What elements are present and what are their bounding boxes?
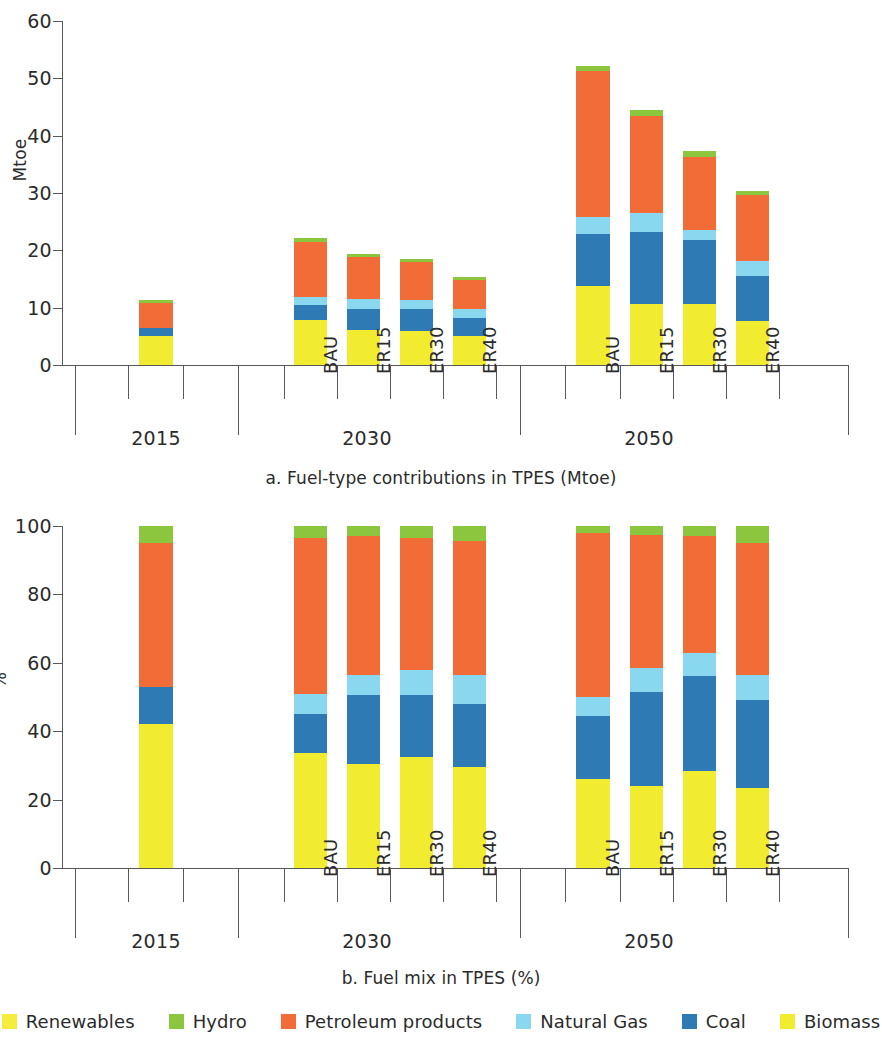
bar-segment	[294, 297, 327, 306]
x-category-label: ER15	[656, 829, 677, 877]
x-category-label: ER30	[426, 829, 447, 877]
x-category-label: ER15	[373, 326, 394, 374]
bar-segment	[139, 724, 173, 868]
x-category-label: BAU	[320, 336, 341, 374]
bar-segment	[453, 280, 486, 309]
bar-segment	[453, 309, 486, 318]
bar-segment	[453, 541, 486, 674]
plot-area-b	[0, 526, 882, 868]
bar-segment	[736, 276, 769, 321]
bar-segment	[400, 670, 433, 696]
stacked-bar	[294, 526, 327, 868]
caption-a: a. Fuel-type contributions in TPES (Mtoe…	[0, 468, 882, 488]
bar-segment	[683, 157, 716, 230]
x-category-label: BAU	[602, 839, 623, 877]
x-category-label: ER40	[762, 829, 783, 877]
x-group-label: 2030	[307, 427, 427, 449]
stacked-bar	[736, 21, 769, 365]
bar-segment	[139, 300, 173, 303]
bar-segment	[736, 195, 769, 260]
bar-segment	[294, 305, 327, 319]
x-tick-mark-group	[75, 868, 76, 938]
x-tick-mark-group	[238, 868, 239, 938]
x-tick-mark	[128, 365, 129, 399]
bar-segment	[400, 300, 433, 309]
bar-segment	[736, 543, 769, 675]
bar-segment	[683, 526, 716, 536]
x-tick-mark-group	[848, 868, 849, 938]
bar-segment	[294, 526, 327, 538]
legend-swatch-icon	[169, 1014, 184, 1029]
bar-segment	[139, 303, 173, 328]
stacked-bar	[576, 526, 610, 868]
bar-segment	[400, 526, 433, 538]
bar-segment	[630, 692, 663, 786]
legend-item: Coal	[682, 1011, 746, 1032]
x-tick-mark	[128, 868, 129, 902]
x-category-label: BAU	[602, 336, 623, 374]
bar-segment	[576, 234, 610, 286]
x-category-label: ER15	[373, 829, 394, 877]
bar-segment	[453, 675, 486, 704]
x-tick-mark	[565, 365, 566, 399]
plot-area-a	[0, 21, 882, 365]
legend-label: Biomass	[804, 1011, 880, 1032]
figure-root: Mtoe 0102030405060 BAUER15ER30ER40BAUER1…	[0, 0, 882, 1037]
legend: RenewablesHydroPetroleum productsNatural…	[0, 1005, 882, 1037]
legend-label: Petroleum products	[305, 1011, 483, 1032]
bar-segment	[347, 526, 380, 536]
x-tick-mark-group	[848, 365, 849, 435]
bar-segment	[294, 538, 327, 694]
bar-segment	[453, 526, 486, 541]
bar-segment	[630, 526, 663, 535]
bar-segment	[294, 714, 327, 753]
legend-item: Biomass	[780, 1011, 880, 1032]
bar-segment	[139, 543, 173, 687]
x-tick-mark	[284, 868, 285, 902]
bar-segment	[347, 299, 380, 309]
bar-segment	[630, 535, 663, 668]
bar-segment	[347, 695, 380, 763]
x-tick-mark-group	[520, 868, 521, 938]
chart-panel-a: Mtoe 0102030405060 BAUER15ER30ER40BAUER1…	[0, 0, 882, 500]
bar-segment	[453, 277, 486, 280]
x-tick-mark	[284, 365, 285, 399]
x-category-label: ER30	[709, 829, 730, 877]
legend-item: Natural Gas	[516, 1011, 648, 1032]
stacked-bar	[453, 21, 486, 365]
x-axis-line-b	[62, 868, 848, 869]
stacked-bar	[139, 21, 173, 365]
x-axis-line-a	[62, 365, 848, 366]
stacked-bar	[347, 526, 380, 868]
bar-segment	[576, 716, 610, 779]
stacked-bar	[630, 21, 663, 365]
legend-label: Natural Gas	[540, 1011, 648, 1032]
stacked-bar	[630, 526, 663, 868]
bar-segment	[630, 668, 663, 692]
bar-segment	[347, 536, 380, 675]
legend-item: Petroleum products	[281, 1011, 483, 1032]
bar-segment	[347, 257, 380, 299]
x-group-label: 2015	[96, 930, 216, 952]
bar-segment	[400, 538, 433, 670]
bar-segment	[576, 71, 610, 217]
bar-segment	[139, 328, 173, 337]
x-category-label: ER30	[426, 326, 447, 374]
x-group-label: 2030	[307, 930, 427, 952]
bar-segment	[139, 687, 173, 725]
bar-segment	[347, 254, 380, 257]
stacked-bar	[400, 526, 433, 868]
stacked-bar	[294, 21, 327, 365]
chart-panel-b: % 020406080100 BAUER15ER30ER40BAUER15ER3…	[0, 505, 882, 1005]
x-group-label: 2050	[589, 930, 709, 952]
bar-segment	[400, 259, 433, 262]
x-tick-mark-group	[75, 365, 76, 435]
bar-segment	[576, 533, 610, 697]
bar-segment	[630, 116, 663, 213]
legend-label: Hydro	[193, 1011, 247, 1032]
bar-segment	[683, 536, 716, 652]
legend-item: Renewables	[2, 1011, 135, 1032]
legend-swatch-icon	[780, 1014, 795, 1029]
x-category-label: ER40	[479, 326, 500, 374]
x-category-label: ER40	[479, 829, 500, 877]
